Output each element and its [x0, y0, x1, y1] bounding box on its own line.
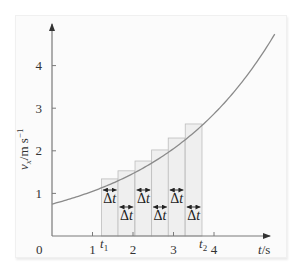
- x-axis-label: t/s: [258, 242, 270, 257]
- velocity-time-chart: ΔtΔtΔtΔtΔtΔt 1234 1234 0 t1 t2 t/s vx/m …: [0, 0, 303, 270]
- y-ticks: 1234: [36, 58, 57, 201]
- x-tick-label: 2: [130, 242, 137, 257]
- delta-t-annotation: Δt: [103, 190, 117, 206]
- delta-t-label: Δt: [170, 191, 184, 206]
- delta-t-annotation: Δt: [187, 207, 201, 223]
- delta-t-label: Δt: [187, 208, 201, 223]
- delta-t-label: Δt: [120, 208, 134, 223]
- t2-label: t2: [199, 236, 207, 253]
- x-tick-label: 4: [211, 242, 218, 257]
- delta-t-annotation: Δt: [153, 207, 167, 223]
- y-tick-label: 2: [36, 143, 43, 158]
- x-tick-label: 1: [89, 242, 96, 257]
- riemann-strip: [168, 138, 185, 236]
- riemann-strip: [152, 150, 169, 236]
- y-tick-label: 1: [36, 186, 43, 201]
- delta-t-label: Δt: [103, 191, 117, 206]
- y-tick-label: 4: [36, 58, 43, 73]
- y-tick-label: 3: [36, 101, 43, 116]
- riemann-strip: [118, 171, 135, 236]
- delta-t-label: Δt: [137, 191, 151, 206]
- y-axis-label: vx/m s−1: [15, 129, 33, 170]
- delta-t-label: Δt: [154, 208, 168, 223]
- delta-t-annotation: Δt: [170, 190, 184, 206]
- origin-label: 0: [36, 242, 43, 257]
- delta-t-annotation: Δt: [137, 190, 151, 206]
- delta-t-annotation: Δt: [120, 207, 134, 223]
- x-tick-label: 3: [170, 242, 177, 257]
- t1-label: t1: [100, 236, 108, 253]
